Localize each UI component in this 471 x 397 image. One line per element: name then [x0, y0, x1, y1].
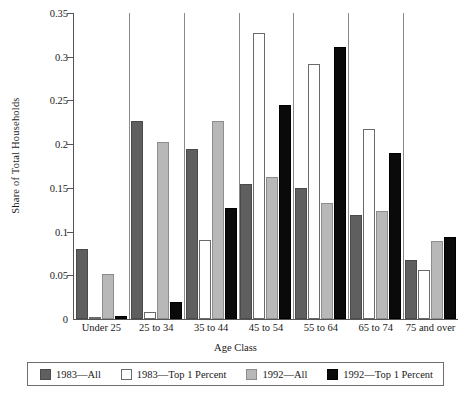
- x-tick-label: 55 to 64: [304, 322, 338, 333]
- y-tick-label: 0.25: [50, 95, 68, 106]
- legend-label: 1983—All: [56, 369, 101, 380]
- y-tick-label: 0.15: [50, 182, 68, 193]
- legend-item[interactable]: 1983—Top 1 Percent: [121, 369, 227, 380]
- bar[interactable]: [363, 129, 375, 319]
- y-axis-tick-labels: 00.050.10.150.20.250.30.35: [34, 0, 68, 340]
- legend-item[interactable]: 1992—Top 1 Percent: [327, 369, 433, 380]
- plot-area: Share of Total Households 00.050.10.150.…: [0, 0, 471, 340]
- chart-figure: Share of Total Households 00.050.10.150.…: [0, 0, 471, 397]
- y-tick-label: 0.35: [50, 8, 68, 19]
- x-tick-label: 45 to 54: [249, 322, 283, 333]
- legend-label: 1983—Top 1 Percent: [137, 369, 227, 380]
- bars-container: [74, 13, 458, 319]
- bar-group: [74, 13, 129, 319]
- y-tick-label: 0: [63, 314, 68, 325]
- bar-group: [129, 13, 184, 319]
- legend-swatch-1992-all: [246, 369, 257, 380]
- bar-group: [184, 13, 239, 319]
- bar[interactable]: [295, 188, 307, 319]
- legend-item[interactable]: 1992—All: [246, 369, 307, 380]
- legend-swatch-1992-top1: [327, 369, 338, 380]
- bar[interactable]: [102, 274, 114, 319]
- bar[interactable]: [170, 302, 182, 319]
- bar-group: [403, 13, 458, 319]
- bar[interactable]: [253, 33, 265, 319]
- bar[interactable]: [334, 47, 346, 319]
- bar[interactable]: [279, 105, 291, 319]
- x-axis-title: Age Class: [0, 342, 471, 353]
- x-axis-line: [73, 319, 458, 320]
- bar[interactable]: [350, 215, 362, 319]
- bar[interactable]: [212, 121, 224, 319]
- legend-label: 1992—All: [262, 369, 307, 380]
- bar[interactable]: [89, 317, 101, 319]
- x-tick-label: 75 and over: [406, 322, 456, 333]
- x-tick-label: 35 to 44: [194, 322, 228, 333]
- x-tick-label: 25 to 34: [139, 322, 173, 333]
- bar[interactable]: [76, 249, 88, 319]
- bar[interactable]: [131, 121, 143, 319]
- y-tick-label: 0.05: [50, 270, 68, 281]
- bar[interactable]: [405, 260, 417, 319]
- bar[interactable]: [115, 316, 127, 319]
- bar[interactable]: [376, 211, 388, 319]
- legend-swatch-1983-all: [40, 369, 51, 380]
- bar-group: [293, 13, 348, 319]
- bar[interactable]: [157, 142, 169, 319]
- x-tick-label: 65 to 74: [358, 322, 392, 333]
- bar[interactable]: [199, 240, 211, 319]
- bar[interactable]: [186, 149, 198, 319]
- bar[interactable]: [308, 64, 320, 319]
- legend-swatch-1983-top1: [121, 369, 132, 380]
- bar-group: [239, 13, 294, 319]
- legend-item[interactable]: 1983—All: [40, 369, 101, 380]
- bar[interactable]: [266, 177, 278, 319]
- x-tick-label: Under 25: [82, 322, 121, 333]
- bar[interactable]: [321, 203, 333, 319]
- bar[interactable]: [144, 312, 156, 319]
- bar[interactable]: [431, 241, 443, 319]
- x-axis-tick-labels: Under 2525 to 3435 to 4445 to 5455 to 64…: [74, 322, 458, 340]
- chart-legend: 1983—All 1983—Top 1 Percent 1992—All 199…: [27, 362, 444, 386]
- bar[interactable]: [240, 184, 252, 320]
- bar-group: [348, 13, 403, 319]
- bar[interactable]: [389, 153, 401, 319]
- bar[interactable]: [444, 237, 456, 319]
- bar[interactable]: [225, 208, 237, 319]
- y-axis-title: Share of Total Households: [10, 56, 21, 256]
- bar[interactable]: [418, 270, 430, 319]
- legend-label: 1992—Top 1 Percent: [343, 369, 433, 380]
